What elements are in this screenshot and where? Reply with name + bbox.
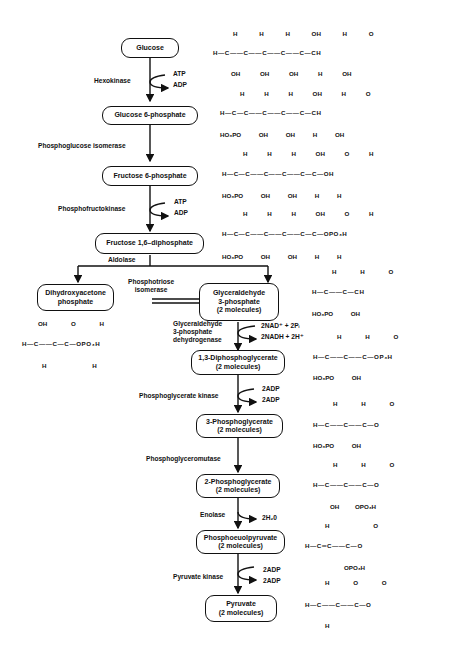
structure-top: OH O H (38, 320, 104, 327)
cofactor-pfk-atp: ATP (174, 198, 187, 206)
node-label-line1: 2-Phosphoglycerate (205, 478, 272, 487)
cofactor-hex-adp: ADP (173, 81, 187, 89)
node-label-line2: (2 molecules) (219, 609, 264, 618)
structure-bottom: HO₃PO OH OH H OH (220, 131, 344, 138)
enzyme-phosphoglyceromutase: Phosphoglyceromutase (146, 455, 221, 463)
node-label-line1: 3-Phosphoglycerate (206, 418, 273, 427)
node-label-line1: 1,3-Diphosphoglycerate (198, 354, 277, 363)
structure-main: H—C═C——C—O (305, 542, 363, 549)
cofactor-hex-atp: ATP (173, 70, 186, 78)
enzyme-label-line1: Glyceraldehyde (173, 320, 222, 328)
enzyme-label-line2: isomerase (128, 286, 174, 294)
cofactor-gapdh-nad: 2NAD⁺ + 2Pᵢ (261, 322, 299, 330)
structure-top: H H O (337, 333, 398, 340)
structure-bottom: OH OPO₃H (330, 503, 376, 510)
structure-bottom: H (325, 622, 329, 629)
node-label-line2: (2 molecules) (216, 486, 261, 495)
node-label-line1: Dihydroxyacetone (45, 289, 106, 298)
node-label-line2: 3-phosphate (218, 298, 260, 307)
cofactor-gapdh-nadh: 2NADH + 2H⁺ (261, 333, 304, 341)
enzyme-label-line1: Phosphotriose (128, 278, 174, 286)
node-label: Fructose 1,6–diphosphate (106, 239, 193, 248)
enzyme-aldolase: Aldolase (108, 256, 135, 264)
structure-top: H O (325, 522, 378, 529)
structure-main: H—C—C——C——C——C—C—OH (222, 170, 334, 177)
structure-main: H—C——C——C——C——C—CH (213, 49, 321, 56)
node-label-line1: Pyruvate (226, 600, 256, 609)
structure-main: H—C——C—CH (312, 288, 365, 295)
structure-bottom: H H (42, 362, 97, 369)
structure-bottom: HO₃PO OH (313, 442, 361, 449)
enzyme-label-line2: 3-phosphate (173, 328, 222, 336)
cofactor-pk-adp-out: 2ADP (263, 577, 281, 585)
structure-top: H H H OH H O (233, 30, 374, 37)
structure-main: H—C——C——C—O (313, 481, 379, 488)
structure-top: H H H OH O H (243, 150, 374, 157)
node-glucose: Glucose (121, 38, 179, 58)
structure-top: H H H OH H O (240, 90, 371, 97)
structure-top: H H O (333, 461, 394, 468)
enzyme-glyceraldehyde-3-phosphate-dehydrogenase: Glyceraldehyde 3-phosphate dehydrogenase (173, 320, 222, 344)
enzyme-pyruvate-kinase: Pyruvate kinase (173, 573, 223, 581)
node-3-phosphoglycerate: 3-Phosphoglycerate (2 molecules) (196, 414, 283, 438)
node-glyceraldehyde-3-phosphate: Glyceraldehyde 3-phosphate (2 molecules) (199, 283, 279, 321)
enzyme-hexokinase: Hexokinase (94, 77, 131, 85)
structure-top: H H O (332, 268, 393, 275)
cofactor-pgk-adp-in: 2ADP (262, 385, 280, 393)
structure-main: H—C——C——C—O (313, 421, 379, 428)
structure-bottom: HO₃PO OH OH H H (222, 192, 341, 199)
node-fructose-6-phosphate: Fructose 6-phosphate (102, 166, 198, 186)
structure-main: H—C——C—C—OPO₃H (22, 340, 100, 347)
node-glucose-6-phosphate: Glucose 6-phosphate (102, 106, 198, 125)
cofactor-pfk-adp: ADP (174, 209, 188, 217)
structure-bottom: HO₃PO OH (312, 310, 360, 317)
structure-bottom: OPO₃H (344, 564, 365, 571)
enzyme-enolase: Enolase (200, 511, 225, 519)
structure-main: H—C——C——C—OP₃H (313, 353, 393, 360)
enzyme-phosphotriose-isomerase: Phosphotriose isomerase (128, 278, 174, 294)
node-label-line3: (2 molecules) (217, 306, 262, 315)
node-label: Glucose (136, 44, 164, 53)
node-1-3-diphosphoglycerate: 1,3-Diphosphoglycerate (2 molecules) (191, 350, 285, 375)
enzyme-label-line3: dehydrogenase (173, 336, 222, 344)
structure-main: H—C——C——C—O (305, 601, 371, 608)
node-label-line2: (2 molecules) (218, 542, 263, 551)
structure-top: H O O (325, 579, 387, 586)
enzyme-phosphofructokinase: Phosphofructokinase (58, 205, 125, 213)
node-pyruvate: Pyruvate (2 molecules) (205, 595, 277, 622)
structure-main: H—C—C——C——C——C—C—OPO₃H (222, 230, 347, 237)
structure-top: H H O (333, 400, 394, 407)
enzyme-phosphoglycerate-kinase: Phosphoglycerate kinase (139, 392, 219, 400)
enzyme-phosphoglucose-isomerase: Phosphoglucose isomerase (38, 142, 126, 150)
structure-bottom: OH OH OH H OH (231, 70, 351, 77)
node-label-line2: phosphate (58, 298, 93, 307)
cofactor-enolase-water: 2H₂0 (262, 514, 277, 522)
structure-top: H H H OH O H (243, 210, 374, 217)
cofactor-pk-adp-in: 2ADP (263, 566, 281, 574)
node-label-line1: Phosphoeuolpyruvate (204, 534, 278, 543)
node-label: Glucose 6-phosphate (114, 111, 185, 120)
structure-bottom: HO₃PO OH (313, 374, 361, 381)
node-dihydroxyacetone-phosphate: Dihydroxyacetone phosphate (37, 284, 114, 311)
cofactor-pgk-adp-out: 2ADP (262, 396, 280, 404)
node-fructose-1-6-diphosphate: Fructose 1,6–diphosphate (95, 233, 204, 254)
structure-main: H—C—C——C——C——C—CH (220, 109, 322, 116)
structure-bottom: HO₃PO OH OH H H (222, 253, 341, 260)
node-label-line2: (2 molecules) (216, 363, 261, 372)
node-phosphoenolpyruvate: Phosphoeuolpyruvate (2 molecules) (196, 530, 285, 554)
node-label-line1: Glyceraldehyde (213, 289, 265, 298)
node-label-line2: (2 molecules) (217, 426, 262, 435)
node-2-phosphoglycerate: 2-Phosphoglycerate (2 molecules) (196, 474, 280, 498)
node-label: Fructose 6-phosphate (113, 172, 186, 181)
